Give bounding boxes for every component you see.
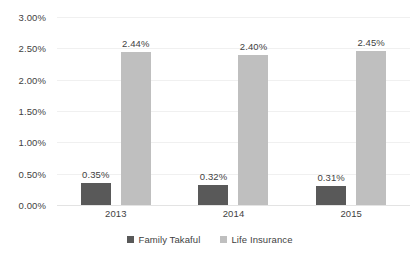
y-axis-tick-label: 1.00% xyxy=(19,137,46,148)
bar-value-label: 0.31% xyxy=(317,172,344,183)
x-axis: 201320142015 xyxy=(57,208,410,224)
bar-value-label: 0.32% xyxy=(200,171,227,182)
legend-label: Life Insurance xyxy=(231,234,292,245)
bar-life-insurance-2015[interactable] xyxy=(356,51,386,205)
y-axis-tick-label: 2.00% xyxy=(19,74,46,85)
bar-slot: 0.32% xyxy=(198,17,228,205)
y-axis-tick-label: 3.00% xyxy=(19,12,46,23)
legend-item-life-insurance[interactable]: Life Insurance xyxy=(220,234,292,245)
bar-chart: 0.00%0.50%1.00%1.50%2.00%2.50%3.00% 0.35… xyxy=(0,0,420,262)
bar-life-insurance-2014[interactable] xyxy=(238,55,268,205)
legend-swatch-icon xyxy=(220,236,227,243)
bar-value-label: 2.40% xyxy=(240,41,267,52)
bar-value-label: 0.35% xyxy=(82,169,109,180)
bar-family-takaful-2015[interactable] xyxy=(316,186,346,205)
bar-slot: 2.45% xyxy=(356,17,386,205)
y-axis-tick-label: 0.50% xyxy=(19,168,46,179)
bar-slot: 2.44% xyxy=(121,17,151,205)
legend-label: Family Takaful xyxy=(138,234,200,245)
bar-group: 0.32%2.40% xyxy=(175,17,293,205)
bar-value-label: 2.45% xyxy=(357,37,384,48)
plot-area: 0.35%2.44%0.32%2.40%0.31%2.45% xyxy=(57,17,410,205)
bar-group: 0.35%2.44% xyxy=(57,17,175,205)
y-axis-tick-label: 0.00% xyxy=(19,200,46,211)
bar-life-insurance-2013[interactable] xyxy=(121,52,151,205)
legend-swatch-icon xyxy=(127,236,134,243)
bar-slot: 2.40% xyxy=(238,17,268,205)
y-axis-tick-label: 1.50% xyxy=(19,106,46,117)
bar-family-takaful-2014[interactable] xyxy=(198,185,228,205)
legend-item-family-takaful[interactable]: Family Takaful xyxy=(127,234,200,245)
bar-group: 0.31%2.45% xyxy=(292,17,410,205)
x-axis-tick-label: 2015 xyxy=(340,208,362,219)
bar-family-takaful-2013[interactable] xyxy=(81,183,111,205)
y-axis-tick-label: 2.50% xyxy=(19,43,46,54)
gridline xyxy=(57,205,410,206)
chart-legend: Family TakafulLife Insurance xyxy=(0,234,420,245)
y-axis: 0.00%0.50%1.00%1.50%2.00%2.50%3.00% xyxy=(0,17,52,205)
bar-slot: 0.35% xyxy=(81,17,111,205)
x-axis-tick-label: 2014 xyxy=(223,208,245,219)
bar-slot: 0.31% xyxy=(316,17,346,205)
bar-value-label: 2.44% xyxy=(122,38,149,49)
x-axis-tick-label: 2013 xyxy=(105,208,127,219)
